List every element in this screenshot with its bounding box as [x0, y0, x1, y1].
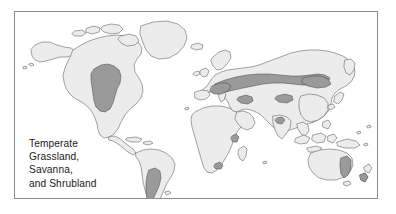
land-borneo: [312, 133, 326, 143]
map-frame: Temperate Grassland, Savanna, and Shrubl…: [14, 11, 378, 199]
biome-map-figure: Temperate Grassland, Savanna, and Shrubl…: [0, 0, 396, 214]
world-map: [15, 12, 377, 198]
